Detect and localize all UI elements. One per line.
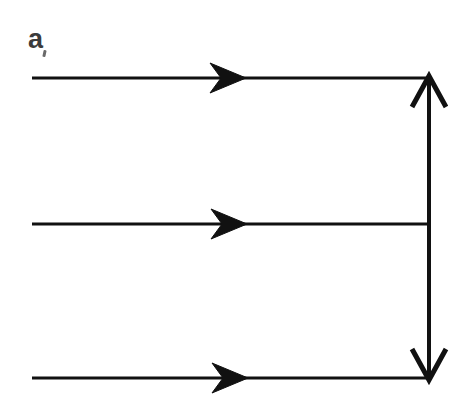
diagram-canvas bbox=[0, 0, 469, 408]
figure-panel-a: a bbox=[0, 0, 469, 408]
vertical-double-arrow bbox=[412, 76, 446, 380]
horizontal-arrow-bottom bbox=[32, 363, 429, 393]
horizontal-arrow-middle bbox=[32, 209, 429, 239]
panel-label: a bbox=[28, 26, 43, 53]
horizontal-arrow-top bbox=[32, 63, 429, 93]
